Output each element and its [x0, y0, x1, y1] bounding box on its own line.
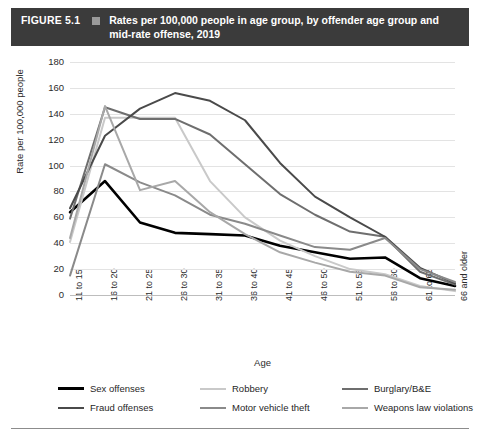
y-tick-label: 100 [18, 161, 64, 171]
series-line [70, 181, 455, 286]
figure-number: FIGURE 5.1 [21, 14, 80, 27]
plot-area [70, 62, 455, 295]
gridline-0 [70, 295, 455, 296]
legend-swatch-icon [58, 407, 84, 409]
y-tick-label: 60 [18, 212, 64, 222]
y-tick-label: 120 [18, 135, 64, 145]
y-tick-label: 180 [18, 57, 64, 67]
square-marker-icon [92, 17, 100, 25]
series-line [70, 106, 455, 290]
legend-label: Sex offenses [90, 383, 145, 394]
legend-item[interactable]: Sex offenses [58, 383, 200, 394]
legend-swatch-icon [342, 407, 368, 409]
x-tick-label: 66 and older [459, 251, 469, 301]
x-axis-title: Age [70, 357, 455, 368]
chart-legend: Sex offensesRobberyBurglary/B&EFraud off… [58, 379, 462, 417]
legend-label: Fraud offenses [90, 402, 153, 413]
y-tick-label: 80 [18, 186, 64, 196]
series-line [70, 93, 455, 283]
legend-item[interactable]: Robbery [200, 383, 342, 394]
legend-swatch-icon [58, 387, 84, 390]
legend-item[interactable]: Fraud offenses [58, 402, 200, 413]
y-tick-label: 160 [18, 83, 64, 93]
legend-swatch-icon [200, 388, 226, 390]
figure-title: Rates per 100,000 people in age group, b… [109, 14, 461, 41]
legend-label: Burglary/B&E [374, 383, 431, 394]
y-tick-label: 140 [18, 109, 64, 119]
legend-label: Weapons law violations [374, 402, 473, 413]
legend-label: Motor vehicle theft [232, 402, 310, 413]
legend-item[interactable]: Burglary/B&E [342, 383, 462, 394]
legend-swatch-icon [200, 407, 226, 409]
legend-swatch-icon [342, 388, 368, 390]
legend-label: Robbery [232, 383, 268, 394]
line-series-group [70, 62, 455, 295]
figure-banner: FIGURE 5.1 Rates per 100,000 people in a… [11, 8, 469, 46]
y-tick-label: 20 [18, 264, 64, 274]
legend-item[interactable]: Motor vehicle theft [200, 402, 342, 413]
bottom-divider [11, 428, 469, 429]
chart-container: Rate per 100,000 people 0204060801001201… [0, 52, 480, 437]
legend-item[interactable]: Weapons law violations [342, 402, 462, 413]
y-tick-label: 0 [18, 290, 64, 300]
series-line [70, 107, 455, 284]
y-tick-label: 40 [18, 238, 64, 248]
